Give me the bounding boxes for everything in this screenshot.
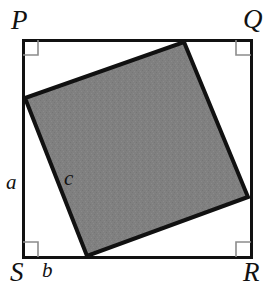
label-vertex-p: P <box>11 7 28 34</box>
label-vertex-s: S <box>10 259 24 286</box>
label-segment-c: c <box>64 168 73 189</box>
label-segment-b: b <box>42 260 53 281</box>
label-segment-a: a <box>6 172 17 193</box>
label-vertex-r: R <box>243 259 260 286</box>
label-vertex-q: Q <box>243 6 263 33</box>
geometry-canvas <box>0 0 269 287</box>
geometry-figure: P Q S R a b c <box>0 0 269 287</box>
